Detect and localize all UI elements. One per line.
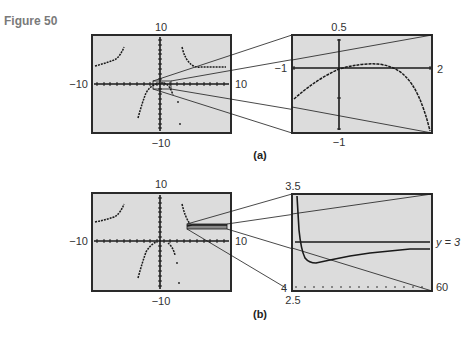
panel-b-zoom xyxy=(292,194,432,291)
b-zoom-xmax-label: 60 xyxy=(436,281,448,293)
a-main-ymin-label: −10 xyxy=(152,137,171,149)
a-zoom-ymax-label: 0.5 xyxy=(331,21,346,33)
panel-a-zoom xyxy=(292,35,432,133)
a-zoom-ymin-label: −1 xyxy=(333,136,346,148)
b-main-ymin-label: −10 xyxy=(152,295,171,307)
panel-a-caption: (a) xyxy=(253,149,267,161)
b-zoom-x-axis-dots xyxy=(295,286,423,288)
figure-canvas: 10 −10 −10 10 0.5 −1 −1 2 (a) xyxy=(0,0,476,338)
b-main-ymax-label: 10 xyxy=(155,178,167,190)
a-main-xmax-label: 10 xyxy=(235,78,247,90)
panel-b-main xyxy=(92,193,231,291)
panel-a-main xyxy=(92,35,231,133)
a-zoom-xmax-label: 2 xyxy=(437,63,443,75)
b-zoom-ymin-label: 2.5 xyxy=(285,294,300,306)
b-zoom-asymptote-label: y = 3 xyxy=(435,236,461,248)
panel-b-caption: (b) xyxy=(253,308,267,320)
a-main-xmin-label: −10 xyxy=(69,78,88,90)
b-main-xmin-label: −10 xyxy=(69,235,88,247)
b-zoom-ymax-label: 3.5 xyxy=(285,180,300,192)
a-zoom-xmin-label: −1 xyxy=(274,62,287,74)
a-main-ymax-label: 10 xyxy=(155,21,167,33)
b-zoom-xmin-label: 4 xyxy=(281,282,287,294)
b-main-xmax-label: 10 xyxy=(235,235,247,247)
